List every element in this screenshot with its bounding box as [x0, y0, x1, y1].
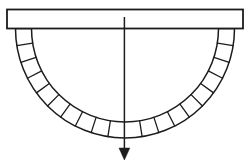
arrow-head-icon: [119, 148, 130, 160]
arch-figure: [0, 0, 251, 165]
arch-figure-svg: [0, 0, 251, 165]
